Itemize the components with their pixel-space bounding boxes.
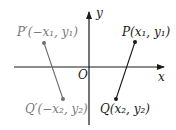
- coordinate-diagram: y x O P′(−x₁, y₁) P(x₁, y₁) Q′(−x₂, y₂) …: [0, 0, 176, 130]
- x-axis-label: x: [158, 70, 165, 84]
- point-q-prime: [61, 97, 65, 101]
- point-p: [133, 40, 137, 44]
- point-q: [114, 97, 118, 101]
- point-q-label: Q(x₂, y₂): [100, 102, 150, 116]
- point-p-label: P(x₁, y₁): [121, 25, 171, 39]
- point-p-prime: [42, 41, 46, 45]
- origin-label: O: [78, 68, 88, 82]
- segment-pq: [116, 42, 135, 99]
- segment-p-prime-q-prime: [44, 43, 63, 99]
- point-p-prime-label: P′(−x₁, y₁): [16, 25, 78, 39]
- point-q-prime-label: Q′(−x₂, y₂): [25, 102, 88, 116]
- y-axis-label: y: [95, 6, 103, 20]
